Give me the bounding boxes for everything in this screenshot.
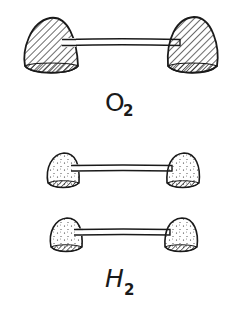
oxygen-molecule: O 2: [24, 17, 217, 120]
hydrogen-2-atom-left: [50, 218, 83, 252]
hydrogen-1-atom-left: [47, 153, 80, 188]
hydrogen-2-bond-stick: [77, 229, 170, 235]
hydrogen-molecule-2: H 2: [50, 218, 197, 299]
hydrogen-2-atom-right: [165, 218, 198, 252]
hydrogen-1-atom-right: [167, 153, 200, 188]
oxygen-atom-left: [24, 18, 78, 73]
hydrogen-label: H 2: [105, 264, 134, 299]
oxygen-atom-right: [168, 17, 218, 73]
hydrogen-molecule-1: [47, 153, 199, 188]
oxygen-bond-stick: [64, 39, 180, 46]
molecule-diagram: O 2: [0, 0, 236, 312]
oxygen-label: O 2: [105, 88, 133, 120]
hydrogen-1-bond-stick: [74, 165, 172, 171]
